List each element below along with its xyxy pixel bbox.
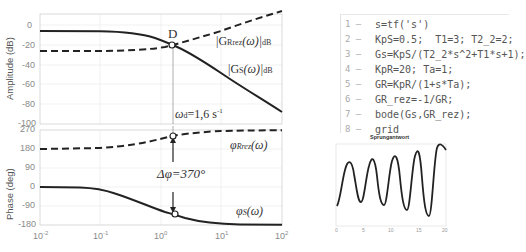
step-x-tick: 5	[362, 227, 365, 233]
step-x-tick: 10	[388, 227, 394, 233]
phi-rrez-label: φRrez(ω)	[230, 138, 267, 153]
matlab-code-editor[interactable]: 1 –s=tf('s') 2 –KpS=0.5; T1=3; T2_2=2; 3…	[340, 14, 509, 133]
step-x-tick: 20	[442, 227, 448, 233]
x-tick: 101	[215, 230, 228, 241]
omega-d-label: ωd=1,6 s-1	[175, 107, 223, 122]
step-response-plot: Sprungantwort 0 5 10 15 20	[330, 136, 455, 236]
bode-phase-plot: Phase (deg) 270 180 90 0 -90 -180 φRrez(…	[0, 126, 290, 252]
gs-magnitude-label: |GS(ω)|dB	[228, 62, 273, 77]
step-response-area	[330, 136, 455, 236]
x-tick: 10-2	[33, 230, 48, 241]
x-tick: 102	[275, 230, 288, 241]
point-d-label: D	[168, 26, 177, 42]
x-tick: 10-1	[93, 230, 108, 241]
x-tick: 100	[154, 230, 167, 241]
delta-phi-label: Δφ=370°	[157, 166, 205, 182]
step-x-tick: 15	[416, 227, 422, 233]
bode-magnitude-plot: Amplitude (dB) 0 -20 -40 -60 -80 -100 D …	[0, 0, 290, 126]
step-x-tick: 0	[335, 227, 338, 233]
grrez-magnitude-label: |GRrez(ω)|dB	[216, 34, 271, 49]
phi-s-label: φS(ω)	[236, 204, 263, 219]
